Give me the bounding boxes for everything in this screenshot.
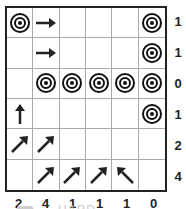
target-icon xyxy=(89,73,109,93)
grid-cell[interactable] xyxy=(86,99,112,129)
arrow-up-right-icon xyxy=(36,134,56,154)
grid-cell[interactable] xyxy=(7,129,33,159)
row-clue: 4 xyxy=(172,169,184,184)
row-clue: 1 xyxy=(172,107,184,122)
grid-cell[interactable] xyxy=(7,38,33,68)
arrow-right-icon xyxy=(35,47,57,59)
target-icon xyxy=(36,73,56,93)
grid-cell[interactable] xyxy=(112,69,138,99)
grid-cell[interactable] xyxy=(139,8,165,38)
puzzle-grid xyxy=(5,6,167,192)
grid-cell[interactable] xyxy=(139,69,165,99)
arrow-up-right-icon xyxy=(36,165,56,185)
grid-cell[interactable] xyxy=(60,8,86,38)
arrow-up-right-icon xyxy=(10,134,30,154)
grid-cell[interactable] xyxy=(139,160,165,190)
grid-cell[interactable] xyxy=(33,160,59,190)
grid-cell[interactable] xyxy=(60,38,86,68)
grid-cell[interactable] xyxy=(7,160,33,190)
grid-cell[interactable] xyxy=(7,99,33,129)
grid-cell[interactable] xyxy=(112,8,138,38)
col-clue: 0 xyxy=(140,196,167,209)
grid-cell[interactable] xyxy=(60,99,86,129)
grid-cell[interactable] xyxy=(33,8,59,38)
grid-cell[interactable] xyxy=(86,129,112,159)
grid-cell[interactable] xyxy=(139,38,165,68)
grid-cell[interactable] xyxy=(60,69,86,99)
grid-cell[interactable] xyxy=(112,160,138,190)
grid-cell[interactable] xyxy=(7,8,33,38)
arrow-up-right-icon xyxy=(89,165,109,185)
arrow-right-icon xyxy=(35,17,57,29)
grid-cell[interactable] xyxy=(139,129,165,159)
grid-cell[interactable] xyxy=(86,38,112,68)
row-clue: 0 xyxy=(172,76,184,91)
target-icon xyxy=(142,73,162,93)
target-icon xyxy=(142,13,162,33)
grid-cell[interactable] xyxy=(7,69,33,99)
row-clue: 2 xyxy=(172,138,184,153)
arrow-up-left-icon xyxy=(115,165,135,185)
grid-cell[interactable] xyxy=(60,129,86,159)
grid-cell[interactable] xyxy=(112,38,138,68)
target-icon xyxy=(62,73,82,93)
arrow-up-right-icon xyxy=(62,165,82,185)
grid-cell[interactable] xyxy=(33,99,59,129)
grid-cell[interactable] xyxy=(86,69,112,99)
grid-cell[interactable] xyxy=(86,160,112,190)
row-clue: 1 xyxy=(172,14,184,29)
grid-cell[interactable] xyxy=(33,38,59,68)
grid-cell[interactable] xyxy=(86,8,112,38)
grid-cell[interactable] xyxy=(33,129,59,159)
grid-cell[interactable] xyxy=(112,129,138,159)
arrow-up-icon xyxy=(14,103,26,125)
target-icon xyxy=(142,43,162,63)
col-clue: 1 xyxy=(113,196,140,209)
grid-cell[interactable] xyxy=(33,69,59,99)
target-icon xyxy=(142,104,162,124)
grid-cell[interactable] xyxy=(139,99,165,129)
row-clue: 1 xyxy=(172,45,184,60)
difficulty-label: HARD xyxy=(58,203,96,209)
grid-cell[interactable] xyxy=(60,160,86,190)
grid-cell[interactable] xyxy=(112,99,138,129)
hexagon-icon xyxy=(8,204,42,209)
target-icon xyxy=(10,13,30,33)
target-icon xyxy=(115,73,135,93)
